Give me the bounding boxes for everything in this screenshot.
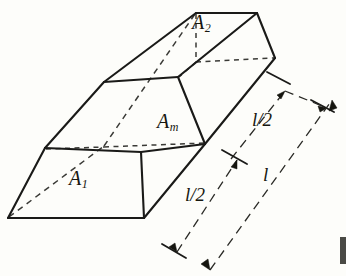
arrow-head-full-top — [329, 100, 337, 111]
arrow-head-upper-a — [277, 91, 285, 99]
label-length-half-upper: l/2 — [252, 110, 272, 129]
dim-tick-upper-start — [267, 72, 290, 84]
label-area-Am: Am — [157, 111, 178, 131]
scan-edge-artifact — [340, 237, 346, 264]
label-area-A2: A2 — [192, 12, 210, 32]
label-length-half-lower: l/2 — [185, 185, 205, 204]
label-length-full: l — [263, 165, 268, 184]
arrow-head-full-bottom — [201, 259, 210, 270]
prismatoid-drawing — [0, 0, 346, 276]
label-area-A1: A1 — [69, 168, 87, 188]
dim-line-upper-half-b — [285, 91, 327, 108]
dim-line-lower-half — [177, 160, 237, 252]
geometry-figure: A2 Am A1 l/2 l/2 l — [0, 0, 346, 276]
arrow-head-lower-a — [231, 160, 237, 169]
dim-tick-lower-mid — [222, 150, 247, 164]
